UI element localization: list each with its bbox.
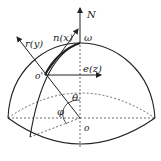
label-phi: φ bbox=[57, 106, 64, 117]
hemisphere-diagram: N ω r(y) n(x) e(z) o' o θ φ bbox=[0, 0, 161, 161]
label-theta: θ bbox=[72, 92, 78, 103]
label-north: N bbox=[86, 9, 97, 20]
label-e-axis: e(z) bbox=[83, 63, 102, 74]
r-axis-line bbox=[17, 37, 80, 118]
label-r-axis: r(y) bbox=[25, 38, 43, 49]
base-front-arc bbox=[8, 118, 155, 144]
meridian-base-radius bbox=[30, 118, 80, 137]
label-n-axis: n(x) bbox=[53, 32, 73, 43]
label-center-o: o bbox=[84, 123, 90, 133]
base-back-arc bbox=[8, 93, 155, 118]
label-o-prime: o' bbox=[35, 71, 43, 81]
label-omega: ω bbox=[84, 32, 92, 43]
